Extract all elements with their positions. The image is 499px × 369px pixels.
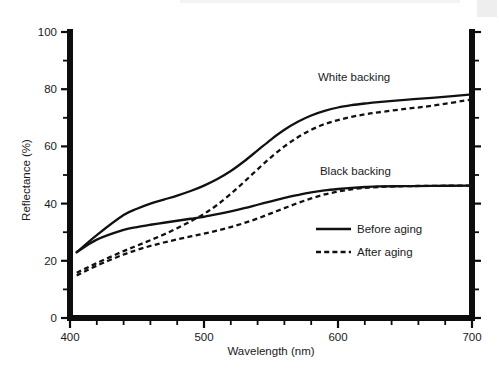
x-axis-major-ticks — [70, 321, 472, 328]
data-series-group — [77, 94, 472, 275]
y-tick-label: 100 — [38, 26, 57, 38]
x-tick-label: 400 — [60, 331, 79, 343]
x-axis-minor-ticks — [97, 321, 445, 325]
y-axis-right-ticks — [475, 32, 481, 318]
x-tick-label: 600 — [328, 331, 347, 343]
x-axis-title: Wavelength (nm) — [227, 345, 314, 357]
y-tick-label: 0 — [51, 312, 57, 324]
chart-legend: Before agingAfter aging — [316, 223, 422, 258]
y-axis-title: Reflectance (%) — [20, 139, 32, 221]
y-axis-tick-labels: 020406080100 — [38, 26, 57, 324]
y-tick-label: 40 — [44, 198, 57, 210]
plot-axes — [67, 29, 475, 318]
x-tick-label: 700 — [462, 331, 481, 343]
y-tick-label: 60 — [44, 140, 57, 152]
curve-annotation-label: White backing — [318, 71, 390, 83]
reflectance-spectrum-chart: 020406080100 400500600700 Wavelength (nm… — [0, 0, 499, 369]
x-axis-tick-labels: 400500600700 — [60, 331, 481, 343]
legend-label: After aging — [357, 246, 413, 258]
y-tick-label: 20 — [44, 255, 57, 267]
y-axis-minor-ticks — [63, 61, 67, 290]
data-curve — [77, 186, 472, 253]
y-tick-label: 80 — [44, 83, 57, 95]
legend-label: Before aging — [357, 223, 422, 235]
curve-annotation-label: Black backing — [320, 165, 391, 177]
x-tick-label: 500 — [194, 331, 213, 343]
